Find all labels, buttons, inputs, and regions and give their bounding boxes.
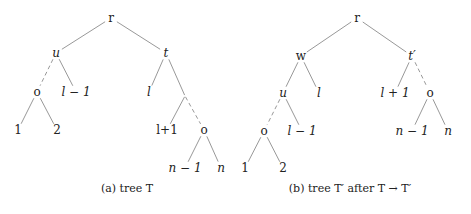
node-r: r [108,11,114,25]
edge-r-t [117,22,160,49]
tree-diagram: rutol − 1l12l+1on − 1n (a) tree T rwt′ul… [0,0,471,214]
edge-u-o1-dashed [267,99,280,124]
tree-T-prime-edges [248,22,445,162]
tree-T-prime: rwt′ull + 1ool − 1n − 1n12 (b) tree T′ a… [241,11,452,196]
node-n2: 2 [53,123,61,137]
node-tp: t′ [408,49,416,63]
node-l: l [147,85,151,99]
edge-o2-nm1 [188,136,201,161]
node-n: n [217,161,225,175]
node-l: l [317,86,321,100]
edge-o1-n1 [248,137,261,162]
edge-w-l [304,62,316,86]
edge-j-o2-dashed [185,97,200,124]
node-u: u [279,86,287,100]
edge-o2-n [207,136,218,161]
node-n: n [444,124,452,138]
node-o1: o [33,85,40,99]
edge-r-w [307,22,351,52]
node-u: u [52,46,60,60]
edge-tp-o2-dashed [415,62,427,86]
edge-t-j [169,59,185,95]
edge-r-tp [363,22,406,52]
tree-T-nodes: rutol − 1l12l+1on − 1n [14,11,225,175]
node-lm1: l − 1 [287,124,316,138]
edge-o1-n2 [267,137,280,162]
node-lm1: l − 1 [61,85,90,99]
node-t: t [164,46,169,60]
node-o2: o [200,123,207,137]
edge-t-l [152,59,163,85]
tree-T: rutol − 1l12l+1on − 1n (a) tree T [14,11,225,196]
edge-tp-lp1 [398,62,409,86]
node-n2: 2 [279,161,287,175]
edge-u-o1-dashed [40,59,53,85]
edge-u-lm1 [59,59,73,86]
edge-o2-nm1 [415,99,427,124]
node-w: w [296,49,307,63]
edge-o1-n2 [40,98,53,124]
edge-w-u [286,62,298,86]
node-nm1: n − 1 [395,124,428,138]
edge-o1-n1 [21,98,34,123]
node-o1: o [260,124,267,138]
edge-o2-n [433,99,445,124]
caption-tree-T: (a) tree T [101,182,154,195]
node-n1: 1 [241,161,249,175]
node-o2: o [426,86,433,100]
tree-T-edges [21,22,218,162]
edge-u-lm1 [286,99,299,124]
node-r: r [354,11,360,25]
node-lp1: l+1 [156,123,178,137]
node-nm1: n − 1 [168,161,201,175]
edge-r-u [62,22,105,49]
node-lp1: l + 1 [380,86,409,100]
node-n1: 1 [14,123,22,137]
edge-j-lp1 [170,97,184,124]
caption-tree-T-prime: (b) tree T′ after T → T′ [289,182,412,195]
tree-T-prime-nodes: rwt′ull + 1ool − 1n − 1n12 [241,11,452,175]
